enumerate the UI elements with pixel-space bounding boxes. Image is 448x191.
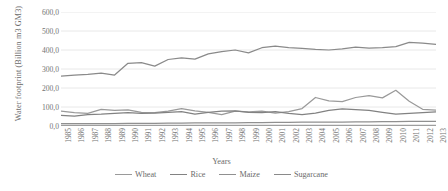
chart-legend: WheatRiceMaizeSugarcane [0, 170, 443, 179]
y-tick-label: 200,0 [28, 84, 59, 93]
x-tick-label: 2006 [345, 128, 354, 143]
x-tick-label: 1985 [64, 128, 73, 143]
x-tick-label: 2013 [439, 128, 448, 143]
legend-label: Rice [190, 170, 205, 179]
legend-label: Wheat [135, 170, 156, 179]
x-tick-label: 1996 [211, 128, 220, 143]
legend-line-icon [274, 174, 291, 175]
plot-svg [61, 12, 436, 126]
y-tick-label: 600,0 [28, 8, 59, 17]
legend-item[interactable]: Maize [219, 170, 259, 179]
legend-line-icon [219, 174, 236, 175]
legend-item[interactable]: Wheat [115, 170, 156, 179]
x-tick-label: 2012 [426, 128, 435, 143]
y-axis-title: Water footprint (Billion m3 GM3) [14, 0, 23, 129]
series-line [61, 121, 436, 123]
x-tick-label: 2010 [399, 128, 408, 143]
series-lines [61, 42, 436, 123]
legend-item[interactable]: Rice [170, 170, 205, 179]
x-tick-label: 1998 [238, 128, 247, 143]
legend-line-icon [115, 174, 132, 175]
x-tick-label: 2001 [278, 128, 287, 143]
x-axis-title: Years [0, 157, 443, 166]
legend-item[interactable]: Sugarcane [274, 170, 328, 179]
legend-label: Sugarcane [294, 170, 328, 179]
x-tick-label: 1991 [144, 128, 153, 143]
y-tick-label: 100,0 [28, 103, 59, 112]
x-tick-label: 1989 [118, 128, 127, 143]
y-tick-label: 500,0 [28, 27, 59, 36]
x-tick-label: 1995 [198, 128, 207, 143]
legend-label: Maize [239, 170, 259, 179]
x-tick-label: 1992 [158, 128, 167, 143]
x-tick-label: 2003 [305, 128, 314, 143]
x-tick-label: 1997 [225, 128, 234, 143]
x-tick-label: 2004 [318, 128, 327, 143]
x-tick-label: 1988 [104, 128, 113, 143]
x-tick-label: 2009 [385, 128, 394, 143]
gridlines [61, 12, 436, 126]
x-axis-tick-labels: 1985198619871988198919901991199219931994… [61, 128, 436, 158]
x-tick-label: 2011 [412, 128, 421, 143]
x-tick-label: 1994 [185, 128, 194, 143]
x-tick-label: 2000 [265, 128, 274, 143]
x-tick-label: 1986 [77, 128, 86, 143]
series-line [61, 90, 436, 114]
plot-area [61, 12, 436, 126]
y-axis-tick-labels: 0,0100,0200,0300,0400,0500,0600,0 [28, 12, 59, 126]
x-tick-label: 2002 [292, 128, 301, 143]
y-tick-label: 400,0 [28, 46, 59, 55]
y-tick-label: 300,0 [28, 65, 59, 74]
y-tick-label: 0,0 [28, 122, 59, 131]
x-tick-label: 2007 [359, 128, 368, 143]
series-line [61, 42, 436, 76]
x-tick-label: 1990 [131, 128, 140, 143]
x-tick-label: 2005 [332, 128, 341, 143]
x-tick-label: 1999 [252, 128, 261, 143]
x-tick-label: 1987 [91, 128, 100, 143]
x-tick-label: 2008 [372, 128, 381, 143]
x-tick-label: 1993 [171, 128, 180, 143]
legend-line-icon [170, 174, 187, 175]
